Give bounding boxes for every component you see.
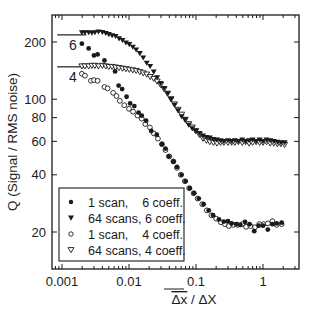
x-axis-label-overlined: Δx [171, 292, 187, 307]
filled-circle-marker [265, 227, 270, 232]
filled-circle-marker [171, 159, 176, 164]
y-axis-label: Q (Signal / RMS noise) [5, 73, 20, 211]
open-circle-marker [114, 94, 119, 99]
series-3 [79, 63, 288, 147]
open-circle-marker [122, 103, 127, 108]
filled-circle-marker [211, 213, 216, 218]
filled-circle-marker [163, 146, 168, 151]
filled-circle-marker [124, 94, 129, 99]
filled-circle-marker [116, 83, 121, 88]
filled-circle-marker [256, 223, 261, 228]
filled-triangle-marker [168, 97, 174, 102]
y-tick-label: 200 [24, 35, 46, 50]
legend-label: 64 scans, 4 coeff. [88, 244, 186, 258]
filled-circle-marker [261, 223, 266, 228]
filled-circle-marker [69, 200, 73, 204]
filled-circle-marker [234, 222, 239, 227]
filled-circle-marker [229, 221, 234, 226]
filled-circle-marker [86, 46, 91, 51]
filled-triangle-marker [140, 55, 146, 60]
y-tick-label: 60 [32, 134, 46, 149]
filled-circle-marker [243, 220, 248, 225]
filled-circle-marker [196, 196, 201, 201]
filled-circle-marker [160, 142, 165, 147]
x-tick-label: 0.01 [116, 274, 141, 289]
filled-circle-marker [279, 220, 284, 225]
y-tick-label: 100 [24, 92, 46, 107]
filled-circle-marker [201, 202, 206, 207]
filled-circle-marker [128, 101, 133, 106]
chart: 0.0010.010.11 20406080100200 64 1 scan, … [0, 0, 312, 315]
legend: 1 scan, 6 coeff.64 scans, 6 coeff.1 scan… [59, 188, 186, 261]
x-tick-label: 1 [259, 274, 266, 289]
open-circle-marker [105, 86, 110, 91]
y-tick-label: 20 [32, 225, 46, 240]
filled-circle-marker [154, 132, 159, 137]
filled-circle-marker [175, 165, 180, 170]
filled-circle-marker [132, 104, 137, 109]
filled-circle-marker [139, 113, 144, 118]
open-circle-marker [131, 109, 136, 114]
y-tick-label: 80 [32, 110, 46, 125]
filled-circle-marker [166, 154, 171, 159]
filled-triangle-marker [147, 64, 153, 69]
filled-triangle-marker [137, 51, 143, 56]
x-tick-label: 0.1 [187, 274, 205, 289]
x-axis-label-rest: / ΔX [187, 292, 216, 307]
filled-circle-marker [221, 219, 226, 224]
filled-circle-marker [79, 41, 84, 46]
filled-circle-marker [270, 222, 275, 227]
x-axis-label: Δx / ΔX [164, 289, 217, 307]
filled-circle-marker [247, 222, 252, 227]
open-circle-marker [265, 221, 270, 226]
filled-circle-marker [274, 221, 279, 226]
reference-line-label: 4 [69, 69, 77, 85]
reference-line-label: 6 [69, 37, 77, 53]
y-tick-label: 40 [32, 167, 46, 182]
open-circle-marker [95, 78, 100, 83]
filled-triangle-marker [165, 91, 171, 96]
legend-label: 1 scan, 6 coeff. [88, 196, 183, 210]
filled-circle-marker [187, 186, 192, 191]
filled-circle-marker [206, 208, 211, 213]
filled-circle-marker [144, 118, 149, 123]
filled-triangle-marker [151, 70, 157, 75]
legend-label: 64 scans, 6 coeff. [88, 212, 186, 226]
legend-label: 1 scan, 4 coeff. [88, 228, 183, 242]
x-axis-label-text: Δx / ΔX [171, 292, 216, 307]
filled-circle-marker [252, 229, 257, 234]
filled-circle-marker [192, 191, 197, 196]
filled-circle-marker [102, 58, 107, 63]
x-tick-label: 0.001 [46, 274, 79, 289]
open-circle-marker [83, 73, 88, 78]
filled-circle-marker [95, 52, 100, 57]
open-circle-marker [69, 232, 73, 236]
filled-circle-marker [149, 129, 154, 134]
filled-circle-marker [217, 217, 222, 222]
filled-circle-marker [183, 179, 188, 184]
filled-circle-marker [238, 222, 243, 227]
filled-circle-marker [113, 69, 118, 74]
filled-circle-marker [120, 87, 125, 92]
filled-circle-marker [179, 172, 184, 177]
open-circle-marker [117, 98, 122, 103]
